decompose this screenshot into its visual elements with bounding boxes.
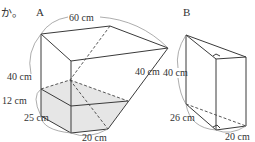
dim-b-depth: 26 cm — [170, 112, 195, 123]
hidden-a-back-slant — [70, 26, 110, 80]
dim-a-top: 60 cm — [69, 12, 94, 23]
water-front-a — [71, 101, 128, 133]
dim-a-depth: 25 cm — [24, 112, 49, 123]
dim-a-width: 20 cm — [82, 132, 107, 142]
edge-a-right-slant — [108, 48, 168, 129]
arc-b-height-lower — [178, 78, 186, 104]
figure-a-label: A — [36, 6, 44, 18]
edge-a-left-top — [41, 34, 71, 61]
header-fragment: か。 — [1, 7, 23, 19]
edge-b-top-back — [216, 57, 246, 59]
figure-a: A — [2, 6, 168, 142]
edge-b-bottom-right — [216, 126, 246, 130]
right-angle-b-top — [213, 54, 220, 56]
figure-b: B 40 cm 26 cm 20 cm — [163, 6, 250, 142]
dim-b-width: 20 cm — [225, 131, 250, 142]
dim-b-height: 40 cm — [163, 67, 188, 78]
dim-a-height: 40 cm — [7, 71, 32, 82]
edge-b-top-front — [186, 35, 216, 59]
dim-a-water: 12 cm — [2, 95, 27, 106]
arc-a-top-r — [100, 17, 168, 48]
edge-a-top-left — [41, 26, 110, 34]
dim-a-slant: 40 cm — [135, 66, 160, 77]
arc-b-height — [177, 35, 186, 68]
geometry-figure: か。 A — [0, 0, 255, 142]
figure-b-label: B — [183, 6, 190, 18]
edge-a-top-right — [110, 26, 168, 48]
arc-a-height — [30, 34, 41, 74]
